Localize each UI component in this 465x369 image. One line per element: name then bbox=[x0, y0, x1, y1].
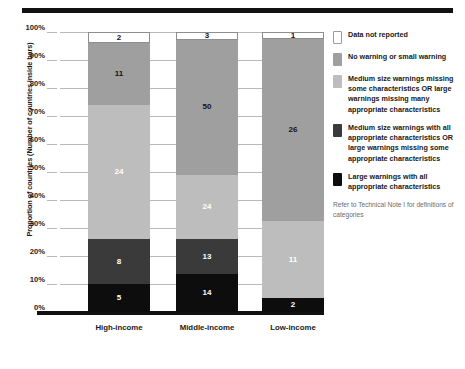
bar-segment[interactable]: 8 bbox=[88, 239, 150, 284]
bar-segment-value: 26 bbox=[262, 126, 324, 134]
legend-item[interactable]: Medium size warnings with all appropriat… bbox=[333, 123, 461, 164]
bar-segment-value: 2 bbox=[89, 34, 149, 42]
top-rule-divider bbox=[22, 8, 453, 13]
legend-label: Large warnings with all appropriate char… bbox=[348, 172, 461, 192]
bar-segment-value: 5 bbox=[88, 294, 150, 302]
bar-segment[interactable]: 13 bbox=[176, 239, 238, 274]
y-tick-label: 50% bbox=[12, 163, 45, 172]
bar-middle-income[interactable]: 141324503 bbox=[176, 32, 238, 312]
bar-segment[interactable]: 3 bbox=[176, 32, 238, 40]
bar-segment-value: 50 bbox=[176, 103, 238, 111]
tick-mark bbox=[47, 144, 57, 145]
y-tick-label: 40% bbox=[12, 191, 45, 200]
tick-mark bbox=[47, 284, 57, 285]
legend-footnote: Refer to Technical Note I for definition… bbox=[333, 200, 461, 219]
tick-mark bbox=[47, 60, 57, 61]
legend-item[interactable]: No warning or small warning bbox=[333, 52, 461, 66]
bar-segment-value: 1 bbox=[263, 32, 323, 40]
legend: Data not reportedNo warning or small war… bbox=[333, 30, 461, 219]
legend-swatch-icon bbox=[333, 75, 342, 88]
legend-label: No warning or small warning bbox=[348, 52, 446, 62]
legend-swatch-icon bbox=[333, 173, 342, 186]
bar-segment[interactable]: 2 bbox=[88, 32, 150, 43]
bar-segment-value: 2 bbox=[262, 301, 324, 309]
bar-segment[interactable]: 2 bbox=[262, 298, 324, 312]
bar-segment[interactable]: 14 bbox=[176, 274, 238, 312]
legend-label: Medium size warnings with all appropriat… bbox=[348, 123, 461, 164]
legend-item[interactable]: Data not reported bbox=[333, 30, 461, 44]
bar-low-income[interactable]: 211261 bbox=[262, 32, 324, 312]
bar-segment-value: 13 bbox=[176, 253, 238, 261]
y-tick-label: 80% bbox=[12, 79, 45, 88]
y-tick-label: 90% bbox=[12, 51, 45, 60]
bar-segment[interactable]: 11 bbox=[88, 43, 150, 105]
bar-segment-value: 24 bbox=[176, 203, 238, 211]
tick-mark bbox=[47, 200, 57, 201]
y-tick-label: 60% bbox=[12, 135, 45, 144]
tick-mark bbox=[47, 228, 57, 229]
x-category-label: Low-income bbox=[238, 323, 348, 332]
bar-segment[interactable]: 24 bbox=[88, 105, 150, 239]
bar-segment-value: 24 bbox=[88, 168, 150, 176]
bar-segment-value: 11 bbox=[262, 256, 324, 264]
bar-segment[interactable]: 11 bbox=[262, 221, 324, 298]
bar-segment[interactable]: 26 bbox=[262, 39, 324, 221]
bar-segment-value: 8 bbox=[88, 258, 150, 266]
legend-item[interactable]: Medium size warnings missing some charac… bbox=[333, 74, 461, 115]
bar-segment[interactable]: 50 bbox=[176, 40, 238, 175]
y-tick-label: 30% bbox=[12, 219, 45, 228]
bar-segment[interactable]: 1 bbox=[262, 32, 324, 39]
bar-segment[interactable]: 5 bbox=[88, 284, 150, 312]
legend-swatch-icon bbox=[333, 53, 342, 66]
legend-label: Medium size warnings missing some charac… bbox=[348, 74, 461, 115]
legend-swatch-icon bbox=[333, 124, 342, 137]
tick-mark bbox=[47, 116, 57, 117]
bar-high-income[interactable]: 5824112 bbox=[88, 32, 150, 312]
legend-swatch-icon bbox=[333, 31, 342, 44]
tick-mark bbox=[47, 172, 57, 173]
y-tick-label: 100% bbox=[12, 23, 45, 32]
bar-segment[interactable]: 24 bbox=[176, 175, 238, 240]
bar-segment-value: 11 bbox=[88, 70, 150, 78]
tick-mark bbox=[47, 32, 57, 33]
stacked-bar-chart-figure: Proportion of countries (Number of count… bbox=[0, 0, 465, 369]
tick-mark bbox=[47, 256, 57, 257]
tick-mark bbox=[47, 88, 57, 89]
bar-segment-value: 3 bbox=[177, 32, 237, 40]
y-tick-label: 70% bbox=[12, 107, 45, 116]
y-tick-label: 10% bbox=[12, 275, 45, 284]
bar-segment-value: 14 bbox=[176, 289, 238, 297]
legend-label: Data not reported bbox=[348, 30, 408, 40]
y-tick-label: 20% bbox=[12, 247, 45, 256]
legend-item[interactable]: Large warnings with all appropriate char… bbox=[333, 172, 461, 192]
